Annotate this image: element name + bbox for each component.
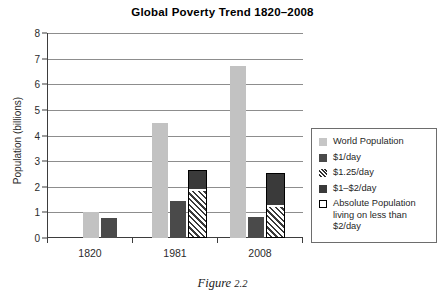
legend-swatch-dollar125-day-icon [319, 169, 327, 177]
legend-item-absolute-population: Absolute Population living on less than … [319, 198, 431, 233]
legend-label-dollar125-day: $1.25/day [333, 167, 374, 179]
figure-caption-prefix: Figure [198, 276, 232, 290]
bar-segment-125-day-2008 [267, 207, 284, 237]
bar-world-population-2008 [230, 66, 246, 238]
legend-item-dollar125-day: $1.25/day [319, 167, 431, 179]
xtick-label-1820: 1820 [60, 247, 120, 259]
chart-title: Global Poverty Trend 1820–2008 [0, 6, 445, 18]
legend-item-dollar1to2-day: $1–$2/day [319, 183, 431, 195]
legend-label-world-population: World Population [333, 136, 404, 148]
legend-item-world-population: World Population [319, 136, 431, 148]
legend-label-dollar1-day: $1/day [333, 152, 361, 164]
ytick-label-0: 0 [14, 233, 40, 244]
legend-item-dollar1-day: $1/day [319, 152, 431, 164]
legend-swatch-world-population-icon [319, 138, 327, 146]
xtick-mark-0 [47, 238, 48, 243]
bar-segment-1to2-day-2008 [267, 174, 284, 205]
xtick-mark-1 [132, 238, 133, 243]
figure-caption-number: 2.2 [234, 278, 247, 289]
bar-segment-125-day-1981 [189, 191, 206, 237]
ytick-label-8: 8 [14, 28, 40, 39]
xtick-mark-2 [217, 238, 218, 243]
bar-absolute-population-2008 [266, 173, 285, 238]
legend-label-absolute-population: Absolute Population living on less than … [333, 198, 431, 233]
legend-swatch-dollar1to2-day-icon [319, 185, 327, 193]
chart-legend: World Population $1/day $1.25/day $1–$2/… [311, 128, 437, 243]
bar-world-population-1981 [152, 123, 168, 238]
bar-world-population-1820 [83, 212, 99, 238]
xtick-label-1981: 1981 [145, 247, 205, 259]
bar-dollar1-1981 [170, 201, 186, 238]
bar-segment-1to2-day-1981 [189, 171, 206, 189]
xtick-label-2008: 2008 [230, 247, 290, 259]
bar-dollar1-2008 [248, 217, 264, 238]
y-axis-title: Population (billions) [12, 61, 23, 221]
bar-dollar1-1820 [101, 218, 117, 239]
bar-absolute-population-1981 [188, 170, 207, 238]
legend-swatch-dollar1-day-icon [319, 154, 327, 162]
legend-label-dollar1to2-day: $1–$2/day [333, 183, 376, 195]
xtick-mark-3 [302, 238, 303, 243]
legend-swatch-absolute-population-icon [319, 200, 327, 208]
figure-container: Global Poverty Trend 1820–2008 8 7 6 5 4… [0, 0, 445, 304]
figure-caption: Figure 2.2 [0, 276, 445, 291]
